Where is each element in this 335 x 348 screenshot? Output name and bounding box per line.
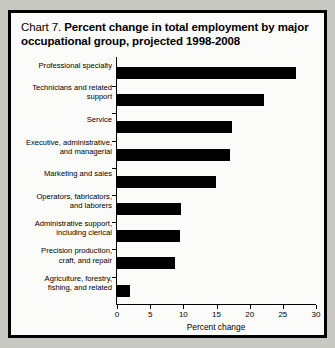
- plot-area: Professional specialtyTechnicians and re…: [11, 57, 324, 319]
- category-tick: [112, 195, 116, 196]
- category-label: Technicians and relatedsupport: [16, 83, 112, 102]
- category-row: Service: [11, 113, 324, 140]
- bar: [117, 176, 216, 188]
- x-tick: [283, 305, 284, 309]
- category-row: Precision production,craft, and repair: [11, 249, 324, 276]
- chart-title-prefix: Chart 7.: [21, 21, 61, 33]
- category-tick: [112, 222, 116, 223]
- category-label-line: Executive, administrative,: [16, 138, 112, 147]
- category-label-line: and laborers: [16, 201, 112, 210]
- bar: [117, 285, 130, 297]
- category-label: Executive, administrative,and managerial: [16, 138, 112, 157]
- chart-title: Chart 7. Percent change in total employm…: [21, 20, 317, 48]
- category-row: Marketing and sales: [11, 168, 324, 195]
- category-tick: [112, 277, 116, 278]
- category-label-line: support: [16, 92, 112, 101]
- category-label-line: Agriculture, forestry,: [16, 274, 112, 283]
- category-label-line: and managerial: [16, 147, 112, 156]
- x-tick: [117, 305, 118, 309]
- chart-canvas: Chart 7. Percent change in total employm…: [11, 13, 324, 335]
- category-label: Service: [16, 115, 112, 124]
- bar: [117, 149, 230, 161]
- x-tick-label: 20: [240, 310, 260, 319]
- category-label-line: Service: [16, 115, 112, 124]
- x-tick-label: 10: [173, 310, 193, 319]
- x-tick-label: 5: [140, 310, 160, 319]
- category-tick: [112, 113, 116, 114]
- category-row: Technicians and relatedsupport: [11, 86, 324, 113]
- category-tick: [112, 168, 116, 169]
- category-tick: [112, 86, 116, 87]
- category-label-line: including clerical: [16, 228, 112, 237]
- page-background: Chart 7. Percent change in total employm…: [0, 0, 335, 348]
- category-label-line: Precision production,: [16, 246, 112, 255]
- category-label-line: Marketing and sales: [16, 169, 112, 178]
- category-label: Operators, fabricators,and laborers: [16, 192, 112, 211]
- category-label-line: Operators, fabricators,: [16, 192, 112, 201]
- x-tick-label: 25: [273, 310, 293, 319]
- category-label: Precision production,craft, and repair: [16, 246, 112, 265]
- bar: [117, 230, 180, 242]
- category-tick: [112, 141, 116, 142]
- category-label-line: fishing, and related: [16, 283, 112, 292]
- category-row: Agriculture, forestry,fishing, and relat…: [11, 277, 324, 304]
- category-label: Marketing and sales: [16, 169, 112, 178]
- category-row: Executive, administrative,and managerial: [11, 141, 324, 168]
- x-tick-label: 30: [306, 310, 326, 319]
- category-label: Agriculture, forestry,fishing, and relat…: [16, 274, 112, 293]
- category-tick: [112, 249, 116, 250]
- category-label-line: craft, and repair: [16, 256, 112, 265]
- chart-title-main: Percent change in total employment by ma…: [21, 21, 309, 47]
- category-row: Operators, fabricators,and laborers: [11, 195, 324, 222]
- category-label-line: Technicians and related: [16, 83, 112, 92]
- bar: [117, 94, 264, 106]
- x-tick: [217, 305, 218, 309]
- x-tick: [250, 305, 251, 309]
- category-label: Administrative support,including clerica…: [16, 219, 112, 238]
- x-tick: [183, 305, 184, 309]
- bar: [117, 257, 175, 269]
- x-tick-label: 0: [107, 310, 127, 319]
- x-tick: [316, 305, 317, 309]
- category-row: Professional specialty: [11, 59, 324, 86]
- x-axis-title: Percent change: [116, 322, 316, 332]
- category-row: Administrative support,including clerica…: [11, 222, 324, 249]
- category-label-line: Professional specialty: [16, 61, 112, 70]
- x-tick: [150, 305, 151, 309]
- chart-frame: Chart 7. Percent change in total employm…: [8, 10, 327, 338]
- bar: [117, 203, 181, 215]
- category-label: Professional specialty: [16, 61, 112, 70]
- bar: [117, 67, 296, 79]
- bar: [117, 121, 232, 133]
- category-label-line: Administrative support,: [16, 219, 112, 228]
- x-tick-label: 15: [207, 310, 227, 319]
